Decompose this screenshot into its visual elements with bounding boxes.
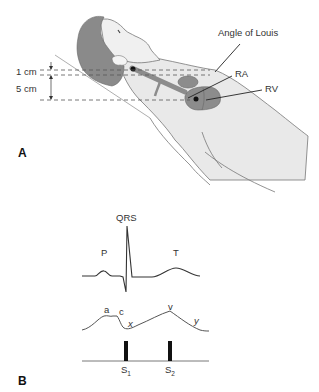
label-s2: S2 <box>165 365 175 375</box>
s1-bar <box>124 341 128 361</box>
label-x: x <box>128 319 133 329</box>
label-a: a <box>104 305 109 315</box>
label-v: v <box>168 302 173 312</box>
label-y: y <box>194 316 199 326</box>
ecg-trace <box>82 226 200 292</box>
label-s1: S1 <box>121 365 131 375</box>
label-p: P <box>101 248 107 258</box>
label-t: T <box>173 248 179 258</box>
label-c: c <box>119 307 124 317</box>
jvp-trace <box>82 311 209 331</box>
panel-letter-b: B <box>18 374 27 388</box>
s2-bar <box>168 341 172 361</box>
label-qrs: QRS <box>116 213 137 223</box>
waveform-diagram <box>0 0 319 392</box>
